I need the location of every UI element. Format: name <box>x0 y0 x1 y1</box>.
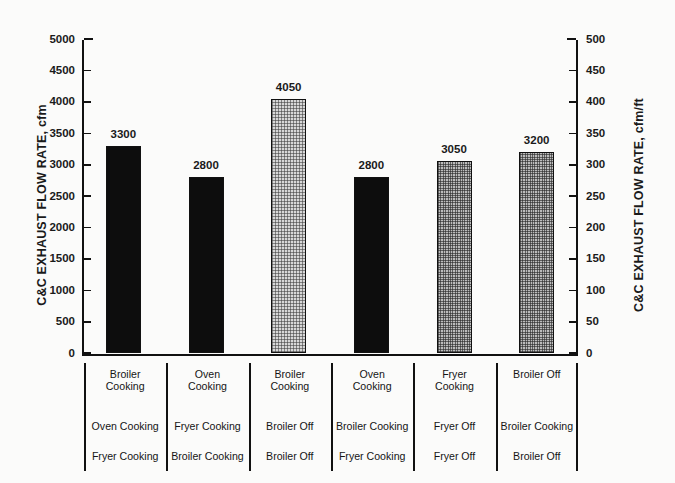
y-axis-left-tick <box>84 164 91 166</box>
condition-cell-line: Cooking <box>353 380 392 392</box>
condition-cell-line: Broiler <box>275 368 306 380</box>
condition-cell-row3: Fryer Off <box>413 441 495 471</box>
y-axis-right-tick-label: 500 <box>586 34 605 46</box>
condition-cell-row2: Broiler Off <box>249 412 331 442</box>
condition-cell-line: Oven <box>195 368 220 380</box>
condition-cell-line: Cooking <box>188 380 227 392</box>
condition-cell-row3: Fryer Cooking <box>331 441 413 471</box>
condition-cell-row3: Broiler Off <box>496 441 578 471</box>
bar <box>354 177 389 353</box>
y-axis-right-tick-label: 350 <box>586 128 605 140</box>
y-axis-right-tick-label: 250 <box>586 191 605 203</box>
bar <box>437 161 472 353</box>
condition-cell-line: Broiler Off <box>513 368 561 380</box>
condition-column-divider <box>496 363 498 471</box>
y-axis-right-tick <box>569 195 576 197</box>
condition-cell-row1: BroilerCooking <box>249 363 331 412</box>
y-axis-left-tick-label: 4500 <box>49 65 75 77</box>
condition-cell-line: Fryer <box>442 368 467 380</box>
y-axis-left-tick-label: 3500 <box>49 128 75 140</box>
y-axis-left-tick <box>84 38 93 40</box>
y-axis-left-tick <box>84 290 91 292</box>
y-axis-left-tick-label: 2500 <box>49 191 75 203</box>
condition-cell-row3: Broiler Off <box>249 441 331 471</box>
y-axis-right-tick <box>567 38 576 40</box>
condition-cell-row2: Oven Cooking <box>84 412 166 442</box>
y-axis-right-tick <box>569 352 576 354</box>
y-axis-left-tick <box>84 70 91 72</box>
y-axis-left-tick-label: 0 <box>69 348 75 360</box>
chart-page: C&C EXHAUST FLOW RATE, cfm C&C EXHAUST F… <box>0 0 675 483</box>
condition-column: OvenCookingBroiler CookingFryer Cooking <box>331 363 413 471</box>
bar <box>189 177 224 353</box>
condition-column: OvenCookingFryer CookingBroiler Cooking <box>166 363 248 471</box>
y-axis-right-tick-label: 400 <box>586 96 605 108</box>
condition-cell-row1: Broiler Off <box>496 363 578 412</box>
condition-cell-row2: Broiler Cooking <box>496 412 578 442</box>
condition-cell-row2: Broiler Cooking <box>331 412 413 442</box>
y-axis-right-tick-label: 450 <box>586 65 605 77</box>
condition-column-divider <box>331 363 333 471</box>
y-axis-right-tick <box>569 321 576 323</box>
bar-value-label: 2800 <box>193 159 219 171</box>
bar <box>519 152 554 353</box>
bar-value-label: 4050 <box>276 81 302 93</box>
y-axis-left-tick <box>84 352 91 354</box>
condition-cell-row2: Fryer Cooking <box>166 412 248 442</box>
y-axis-left-tick <box>84 195 91 197</box>
y-axis-right-tick <box>569 290 576 292</box>
y-axis-left-tick-label: 1000 <box>49 285 75 297</box>
y-axis-right-title: C&C EXHAUST FLOW RATE, cfm/ft <box>632 85 646 325</box>
condition-cell-row1: BroilerCooking <box>84 363 166 412</box>
condition-column: BroilerCookingOven CookingFryer Cooking <box>84 363 166 471</box>
x-axis-baseline <box>82 354 578 356</box>
condition-column: FryerCookingFryer OffFryer Off <box>413 363 495 471</box>
y-axis-right-tick <box>569 133 576 135</box>
condition-column-divider <box>413 363 415 471</box>
bar-value-label: 3050 <box>441 143 467 155</box>
y-axis-left-tick-label: 3000 <box>49 159 75 171</box>
y-axis-left-tick-label: 1500 <box>49 253 75 265</box>
y-axis-right-tick-label: 100 <box>586 285 605 297</box>
condition-cell-row1: OvenCooking <box>331 363 413 412</box>
y-axis-right-tick-label: 300 <box>586 159 605 171</box>
y-axis-left-tick <box>84 133 91 135</box>
y-axis-left-tick <box>84 227 91 229</box>
y-axis-left-tick-label: 4000 <box>49 96 75 108</box>
y-axis-right-tick <box>569 101 576 103</box>
bar-value-label: 3200 <box>524 134 550 146</box>
condition-cell-line: Cooking <box>270 380 309 392</box>
condition-cell-row3: Broiler Cooking <box>166 441 248 471</box>
condition-column-divider <box>166 363 168 471</box>
condition-cell-line: Broiler <box>110 368 141 380</box>
y-axis-right-tick-label: 0 <box>586 348 592 360</box>
y-axis-right-tick-label: 150 <box>586 253 605 265</box>
condition-column-divider <box>249 363 251 471</box>
condition-cell-row1: FryerCooking <box>413 363 495 412</box>
y-axis-left-tick-label: 500 <box>56 316 75 328</box>
condition-cell-line: Cooking <box>106 380 145 392</box>
bar-value-label: 3300 <box>111 128 137 140</box>
plot-area: 0500100015002000250030003500400045005000… <box>82 40 578 355</box>
y-axis-right-tick <box>569 164 576 166</box>
y-axis-right-tick <box>569 70 576 72</box>
bar <box>271 99 306 353</box>
y-axis-right-tick <box>569 258 576 260</box>
y-axis-left-tick-label: 2000 <box>49 222 75 234</box>
bar-value-label: 2800 <box>359 159 385 171</box>
condition-cell-row3: Fryer Cooking <box>84 441 166 471</box>
y-axis-right-tick <box>569 227 576 229</box>
y-axis-left-tick <box>84 258 91 260</box>
y-axis-left-tick <box>84 101 91 103</box>
condition-cell-row2: Fryer Off <box>413 412 495 442</box>
condition-cell-line: Cooking <box>435 380 474 392</box>
y-axis-left-line <box>82 40 84 356</box>
condition-column: BroilerCookingBroiler OffBroiler Off <box>249 363 331 471</box>
condition-column: Broiler OffBroiler CookingBroiler Off <box>496 363 578 471</box>
y-axis-left-tick <box>84 321 91 323</box>
y-axis-right-line <box>576 40 578 356</box>
y-axis-left-title: C&C EXHAUST FLOW RATE, cfm <box>35 85 49 325</box>
condition-column-divider <box>576 363 578 471</box>
condition-cell-row1: OvenCooking <box>166 363 248 412</box>
y-axis-right-tick-label: 50 <box>586 316 599 328</box>
